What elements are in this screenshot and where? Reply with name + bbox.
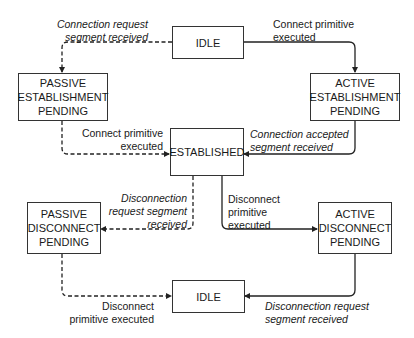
state-label: ACTIVE [335, 207, 375, 221]
label-connection-request-segment-received: Connection request segment received [52, 18, 148, 44]
state-active-disconnect-pending: ACTIVE DISCONNECT PENDING [318, 202, 392, 254]
label-disconnect-primitive-executed-right: Disconnect primitive executed [228, 193, 280, 232]
state-active-establishment-pending: ACTIVE ESTABLISHMENT PENDING [310, 73, 400, 121]
state-label: PENDING [330, 104, 380, 118]
label-connection-accepted-segment-received: Connection accepted segment received [250, 128, 349, 154]
label-connect-primitive-executed-mid: Connect primitive executed [66, 127, 163, 153]
state-label: IDLE [196, 290, 220, 304]
state-label: IDLE [196, 36, 220, 50]
state-idle-bottom: IDLE [172, 280, 245, 313]
arrow-idle-to-passive-establishment [62, 42, 172, 72]
state-label: ESTABLISHMENT [310, 90, 401, 104]
state-established: ESTABLISHED [170, 128, 244, 176]
state-label: DISCONNECT [28, 221, 101, 235]
state-label: PASSIVE [40, 76, 86, 90]
state-label: ACTIVE [335, 76, 375, 90]
state-label: ESTABLISHMENT [18, 90, 109, 104]
state-label: ESTABLISHED [170, 145, 245, 159]
label-disconnection-request-segment-received-bottom: Disconnection request segment received [265, 300, 369, 326]
state-label: PENDING [330, 235, 380, 249]
label-disconnect-primitive-executed-bottom: Disconnect primitive executed [66, 300, 154, 326]
state-label: PASSIVE [41, 207, 87, 221]
state-label: PENDING [39, 235, 89, 249]
state-label: DISCONNECT [319, 221, 392, 235]
label-connect-primitive-executed-top: Connect primitive executed [273, 18, 354, 44]
state-idle-top: IDLE [172, 26, 244, 59]
label-disconnection-request-segment-received-left: Disconnection request segment received [94, 192, 187, 231]
arrow-passive-disconnect-to-idle [62, 254, 171, 296]
state-label: PENDING [38, 104, 88, 118]
arrow-active-disconnect-to-idle [245, 254, 355, 296]
state-passive-establishment-pending: PASSIVE ESTABLISHMENT PENDING [18, 73, 108, 121]
arrow-idle-to-active-establishment [243, 42, 355, 72]
state-passive-disconnect-pending: PASSIVE DISCONNECT PENDING [27, 202, 101, 254]
